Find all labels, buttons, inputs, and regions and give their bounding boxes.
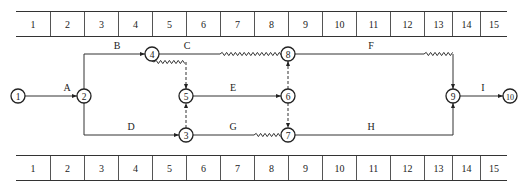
event-node-5: 5 bbox=[179, 89, 193, 103]
svg-text:8: 8 bbox=[286, 50, 291, 60]
event-node-4: 4 bbox=[145, 47, 159, 61]
activity-label-D: D bbox=[127, 121, 134, 132]
svg-text:7: 7 bbox=[286, 131, 291, 141]
activity-label-B: B bbox=[114, 40, 121, 51]
event-node-9: 9 bbox=[446, 89, 460, 103]
activity-label-H: H bbox=[367, 121, 374, 132]
event-node-10: 10 bbox=[503, 89, 517, 103]
time-scaled-network-diagram: ABCDEFGHI 12345678910 bbox=[0, 0, 524, 190]
event-node-1: 1 bbox=[11, 89, 25, 103]
free-float-wavy-line bbox=[254, 133, 280, 136]
svg-text:10: 10 bbox=[506, 93, 514, 102]
event-node-6: 6 bbox=[281, 89, 295, 103]
svg-text:2: 2 bbox=[82, 92, 87, 102]
activity-label-C: C bbox=[184, 40, 191, 51]
svg-text:9: 9 bbox=[451, 92, 456, 102]
svg-text:3: 3 bbox=[184, 131, 189, 141]
free-float-wavy-line bbox=[220, 52, 282, 55]
svg-text:6: 6 bbox=[286, 92, 291, 102]
svg-text:5: 5 bbox=[184, 92, 189, 102]
event-node-8: 8 bbox=[281, 47, 295, 61]
activity-label-E: E bbox=[230, 82, 236, 93]
event-node-2: 2 bbox=[77, 89, 91, 103]
svg-text:4: 4 bbox=[150, 50, 155, 60]
activity-label-F: F bbox=[368, 40, 374, 51]
activity-label-G: G bbox=[229, 121, 236, 132]
event-node-7: 7 bbox=[281, 128, 295, 142]
svg-text:1: 1 bbox=[16, 92, 21, 102]
free-float-wavy-line bbox=[154, 60, 185, 63]
activity-label-I: I bbox=[481, 82, 484, 93]
activity-label-A: A bbox=[63, 82, 71, 93]
event-node-3: 3 bbox=[179, 128, 193, 142]
free-float-wavy-line bbox=[424, 52, 453, 55]
